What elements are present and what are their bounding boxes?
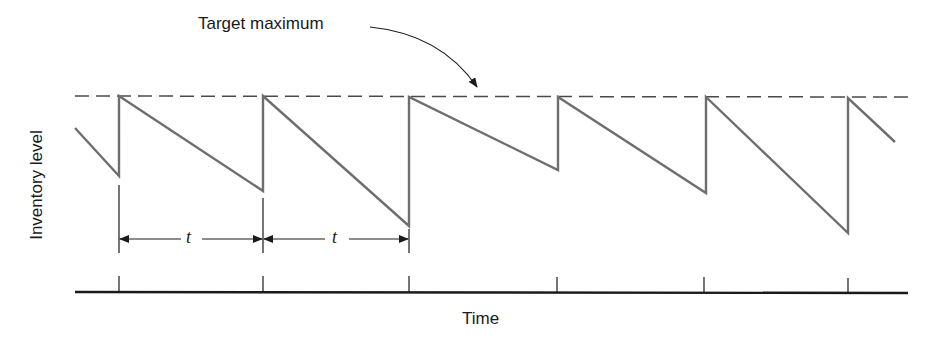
target-maximum-label: Target maximum bbox=[198, 14, 324, 34]
interval-label-2: t bbox=[332, 227, 337, 248]
inventory-sawtooth bbox=[75, 96, 895, 233]
inventory-diagram bbox=[0, 0, 939, 338]
annotation-arrow bbox=[370, 27, 477, 87]
axis-ticks bbox=[119, 276, 848, 293]
interval-label-1: t bbox=[186, 227, 191, 248]
y-axis-label: Inventory level bbox=[27, 130, 47, 240]
x-axis-label: Time bbox=[462, 309, 499, 329]
time-axis bbox=[75, 292, 908, 293]
target-maximum-line bbox=[75, 96, 908, 97]
